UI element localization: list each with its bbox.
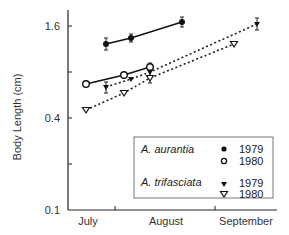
line-trifasciata-1980	[86, 44, 234, 110]
open-triangle-marker	[83, 108, 90, 114]
error-bars	[104, 17, 259, 93]
open-circle-marker	[121, 72, 128, 79]
x-month-label: July	[78, 215, 98, 227]
legend-year: 1980	[239, 155, 263, 167]
legend-open-circle-icon	[221, 158, 226, 163]
open-circle-marker	[147, 64, 154, 71]
legend-year: 1979	[239, 143, 263, 155]
legend-filled-circle-icon	[221, 146, 226, 151]
line-aurantia-1979	[106, 22, 182, 44]
open-circle-marker	[83, 81, 90, 88]
legend-year: 1980	[239, 188, 263, 200]
filled-triangle-marker	[147, 70, 153, 75]
open-triangle-marker	[231, 42, 238, 48]
y-tick-label: 1.6	[45, 20, 60, 32]
chart: 1.6 0.4 0.1 Body Length (cm) July August…	[0, 0, 289, 235]
legend-species-aurantia: A. aurantia	[140, 143, 194, 155]
legend-species-trifasciata: A. trifasciata	[140, 176, 202, 188]
markers-aurantia-1979	[103, 19, 185, 47]
filled-triangle-marker	[103, 85, 109, 90]
markers-aurantia-1980	[83, 64, 154, 88]
filled-circle-marker	[179, 19, 185, 25]
series-lines	[86, 22, 257, 110]
y-tick-label: 0.4	[45, 112, 60, 124]
open-triangle-marker	[121, 91, 128, 97]
filled-circle-marker	[103, 41, 109, 47]
y-tick-label: 0.1	[45, 204, 60, 216]
filled-triangle-marker	[254, 22, 260, 27]
markers-trifasciata-1979	[103, 22, 260, 90]
legend: A. aurantia 1979 1980 A. trifasciata 197…	[134, 137, 273, 200]
filled-circle-marker	[128, 35, 134, 41]
y-axis-title: Body Length (cm)	[11, 74, 23, 161]
x-month-label: August	[149, 215, 183, 227]
x-month-label: September	[219, 215, 273, 227]
